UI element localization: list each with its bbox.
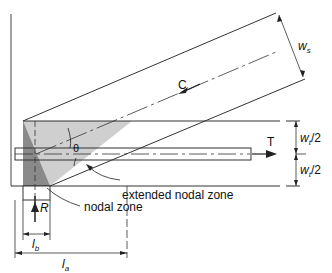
tension-arrow-head [266,150,277,158]
strut-centerline [36,52,276,154]
wt-arrow-1 [294,121,298,127]
tie-half-width-bottom-label: wt/2 [300,163,321,179]
ws-arrow-top [277,15,282,22]
wt-arrow-2 [294,148,298,154]
anchorage-length-label: la [62,257,70,273]
strut-width-label: ws [298,39,311,55]
tie-half-width-top-label: wt/2 [300,131,321,147]
reaction-arrow-head [31,202,39,212]
la-arrow-left [15,251,22,255]
wt-arrow-4 [294,180,298,186]
lb-arrow-left [23,232,29,236]
tension-label: T [267,135,275,149]
compression-label: C [178,78,187,92]
nodal-zone-leader [47,188,80,206]
angle-label: θ [73,142,79,154]
wt-arrow-3 [294,154,298,160]
la-arrow-right [120,251,127,255]
bearing-plate [23,186,50,200]
bearing-length-label: lb [32,237,40,253]
reaction-label: R [40,201,49,215]
lb-arrow-right [44,232,50,236]
nodal-zone-label: nodal zone [84,200,143,214]
strut-upper-edge [23,13,276,121]
strut-tie-diagram: C ws T wt/2 wt/2 θ R extended nodal zone… [0,0,332,273]
